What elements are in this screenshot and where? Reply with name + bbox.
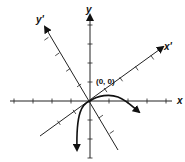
y-prime-axis-tick (66, 68, 70, 71)
y-prime-axis-tick (99, 115, 103, 118)
y-prime-axis-tick (44, 37, 48, 40)
x-axis-label: x (176, 95, 183, 106)
y-prime-axis-tick (110, 131, 114, 134)
rotated-axes-diagram: x y x' y' (0, 0) (0, 0, 185, 162)
y-axis-label: y (85, 4, 92, 15)
x-prime-axis-ticks (57, 55, 153, 124)
y-prime-axis-tick (55, 53, 59, 56)
y-prime-axis (45, 27, 118, 150)
x-prime-axis-tick (151, 55, 154, 59)
x-prime-axis-tick (135, 66, 138, 70)
y-prime-axis-label: y' (35, 14, 45, 25)
curve-right-branch (90, 95, 139, 112)
x-prime-axis-label: x' (163, 41, 173, 52)
origin-label: (0, 0) (96, 77, 115, 86)
